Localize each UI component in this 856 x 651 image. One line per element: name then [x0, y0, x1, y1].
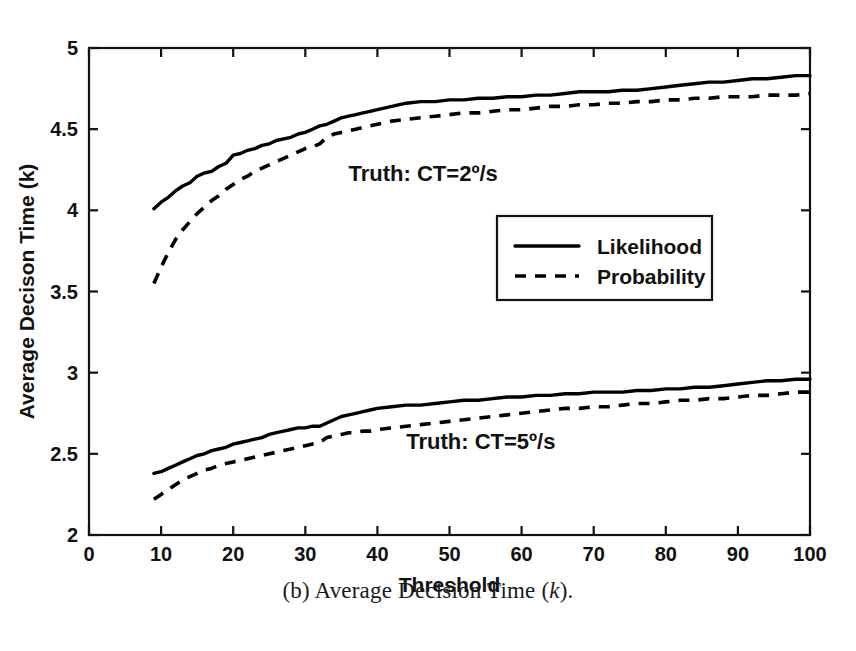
chart-annotation: Truth: CT=2º/s	[349, 161, 498, 186]
y-tick-label: 3.5	[50, 281, 78, 303]
y-tick-label: 2	[67, 524, 78, 546]
chart-annotation: Truth: CT=5º/s	[406, 429, 555, 454]
x-tick-label: 10	[150, 543, 172, 565]
y-tick-label: 4.5	[50, 118, 78, 140]
x-tick-label: 80	[655, 543, 677, 565]
y-tick-label: 2.5	[50, 443, 78, 465]
x-tick-label: 60	[510, 543, 532, 565]
chart-plot: 010203040506070809010022.533.544.55Thres…	[0, 0, 856, 651]
caption-italic-k: k	[549, 578, 559, 603]
y-tick-label: 3	[67, 362, 78, 384]
x-tick-label: 0	[83, 543, 94, 565]
y-tick-label: 4	[67, 199, 79, 221]
caption-suffix: ).	[560, 578, 574, 603]
x-tick-label: 30	[294, 543, 316, 565]
y-axis-title: Average Decison Time (k)	[15, 164, 38, 420]
figure-container: 010203040506070809010022.533.544.55Thres…	[0, 0, 856, 651]
x-tick-label: 90	[727, 543, 749, 565]
x-tick-label: 20	[222, 543, 244, 565]
x-tick-label: 40	[366, 543, 388, 565]
legend-label-likelihood: Likelihood	[597, 235, 702, 258]
x-tick-label: 70	[583, 543, 605, 565]
series-line-solid-0	[154, 76, 810, 209]
figure-caption: (b) Average Decision Time (k).	[0, 578, 856, 604]
y-tick-label: 5	[67, 37, 78, 59]
caption-prefix: (b) Average Decision Time (	[282, 578, 549, 603]
x-tick-label: 50	[438, 543, 460, 565]
legend-label-probability: Probability	[597, 265, 706, 288]
x-tick-label: 100	[793, 543, 826, 565]
